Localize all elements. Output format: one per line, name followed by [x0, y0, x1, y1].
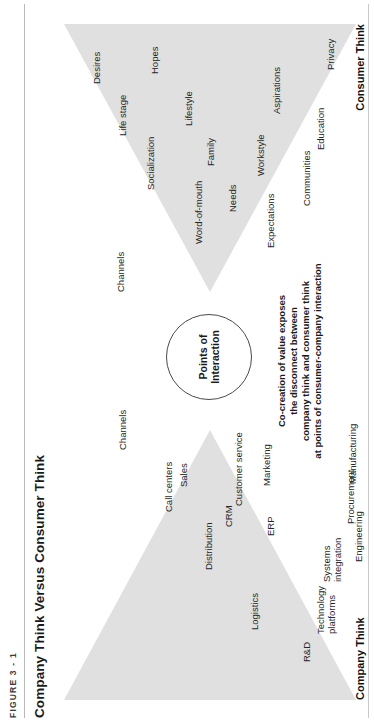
consumer_think-node: Life stage	[118, 95, 129, 136]
circle-label-line-1: Points of	[197, 335, 210, 380]
consumer_think-node: Lifestyle	[184, 91, 195, 126]
diagram-caption: Co-creation of value exposes the disconn…	[276, 263, 324, 458]
header-divider	[24, 4, 25, 718]
company_think-node: Channels	[118, 410, 129, 450]
company_think-node: CRM	[224, 505, 235, 527]
company_think-node: Distribution	[204, 522, 215, 570]
company_think-node: Marketing	[262, 444, 273, 486]
consumer_think-node: Communities	[302, 151, 313, 206]
consumer_think-node: Privacy	[326, 39, 337, 70]
consumer_think-node: Family	[206, 138, 217, 166]
consumer_think-node: Socialization	[146, 137, 157, 190]
consumer_think-node: Desires	[92, 52, 103, 84]
points-of-interaction-circle: Points of Interaction	[166, 314, 252, 400]
consumer_think-node: Hopes	[150, 47, 161, 74]
consumer-think-axis-label: Consumer Think	[354, 24, 366, 111]
company_think-node: Customer service	[234, 432, 245, 506]
consumer_think-node: Needs	[228, 185, 239, 212]
company_think-node: Logistics	[250, 593, 261, 630]
consumer_think-node: Education	[316, 108, 327, 150]
company_think-node: Call centers	[164, 462, 175, 512]
circle-label-line-2: Interaction	[209, 330, 222, 384]
company_think-node: Manufacturing	[348, 424, 359, 484]
figure-stage: FIGURE 3 - 1 Company Think Versus Consum…	[0, 0, 374, 722]
diagram-canvas: Points of Interaction R&DLogisticsTechno…	[54, 0, 374, 722]
company_think-node: Systems integration	[322, 538, 343, 582]
footer-divider	[368, 4, 369, 718]
company-think-axis-label: Company Think	[354, 617, 366, 700]
company_think-node: R&D	[302, 642, 313, 662]
consumer_think-node: Aspirations	[272, 67, 283, 114]
figure-number: FIGURE 3 - 1	[8, 652, 18, 718]
company_think-node: Sales	[179, 463, 190, 487]
consumer_think-node: Workstyle	[256, 134, 267, 176]
consumer_think-node: Channels	[116, 252, 127, 292]
consumer_think-node: Word-of-mouth	[194, 181, 205, 244]
figure-page: FIGURE 3 - 1 Company Think Versus Consum…	[0, 0, 374, 722]
figure-title: Company Think Versus Consumer Think	[32, 455, 47, 718]
company_think-node: ERP	[266, 516, 277, 536]
consumer_think-node: Expectations	[266, 194, 277, 248]
company_think-node: Technology platforms	[316, 586, 337, 634]
